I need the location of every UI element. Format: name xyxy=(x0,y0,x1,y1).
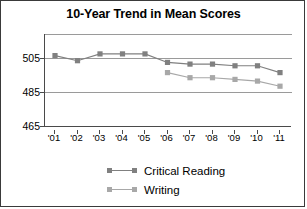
data-point-marker xyxy=(255,79,260,84)
data-point-marker xyxy=(52,53,57,58)
data-point-marker xyxy=(165,60,170,65)
legend-line-icon xyxy=(110,170,134,171)
plot-area xyxy=(44,34,291,127)
x-axis-label: '01 xyxy=(42,132,66,143)
legend-label-critical-reading: Critical Reading xyxy=(144,165,225,177)
x-axis-label: '04 xyxy=(110,132,134,143)
y-axis-label-485: 485 xyxy=(6,86,40,98)
data-point-marker xyxy=(120,51,125,56)
legend-item-writing: Writing xyxy=(1,180,306,199)
chart-title: 10-Year Trend in Mean Scores xyxy=(1,7,306,21)
x-axis-label: '06 xyxy=(155,132,179,143)
series-layer xyxy=(45,34,292,127)
data-point-marker xyxy=(75,58,80,63)
data-point-marker xyxy=(232,77,237,82)
x-axis-label: '02 xyxy=(65,132,89,143)
y-axis-label-465: 465 xyxy=(6,120,40,132)
x-axis-label: '10 xyxy=(245,132,269,143)
x-axis-label: '11 xyxy=(267,132,291,143)
data-point-marker xyxy=(210,75,215,80)
data-point-marker xyxy=(277,70,282,75)
x-axis-label: '05 xyxy=(132,132,156,143)
data-point-marker xyxy=(232,63,237,68)
chart-legend: Critical Reading Writing xyxy=(1,161,306,199)
x-axis-label: '07 xyxy=(177,132,201,143)
y-axis-label-505: 505 xyxy=(6,52,40,64)
data-point-marker xyxy=(187,62,192,67)
legend-swatch-writing xyxy=(107,185,137,194)
series-line xyxy=(168,73,281,87)
legend-marker-icon xyxy=(132,168,137,173)
data-point-marker xyxy=(142,51,147,56)
legend-label-writing: Writing xyxy=(144,184,180,196)
x-axis-label: '03 xyxy=(87,132,111,143)
legend-item-critical-reading: Critical Reading xyxy=(1,161,306,180)
x-axis-labels: '01'02'03'04'05'06'07'08'09'10'11 xyxy=(44,130,291,146)
data-point-marker xyxy=(210,62,215,67)
data-point-marker xyxy=(255,63,260,68)
x-axis-label: '09 xyxy=(222,132,246,143)
data-point-marker xyxy=(97,51,102,56)
chart-figure: 10-Year Trend in Mean Scores 505 485 465… xyxy=(0,0,305,207)
legend-swatch-critical-reading xyxy=(107,166,137,175)
legend-marker-icon xyxy=(132,187,137,192)
legend-line-icon xyxy=(110,189,134,190)
x-axis-label: '08 xyxy=(200,132,224,143)
data-point-marker xyxy=(187,75,192,80)
data-point-marker xyxy=(277,84,282,89)
data-point-marker xyxy=(165,70,170,75)
